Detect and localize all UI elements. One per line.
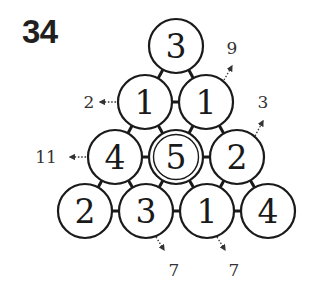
clue-value: 11	[35, 147, 57, 167]
circle-grid: 3114522314	[58, 19, 295, 238]
cell-value: 4	[105, 138, 126, 177]
clue-diag-mid-right: 3	[255, 92, 268, 136]
clue-bottom-2: 7	[217, 237, 239, 280]
cell-value: 2	[227, 138, 248, 177]
dotted-arrow-icon	[217, 237, 225, 250]
cell-value: 3	[136, 192, 157, 231]
cell-value: 1	[196, 83, 217, 122]
circle-cell-r4c2: 3	[119, 184, 173, 238]
circle-cell-r2c1: 1	[118, 75, 172, 129]
circle-cell-r4c1: 2	[58, 184, 112, 238]
clue-value: 9	[227, 38, 238, 58]
circle-cell-r3c1: 4	[88, 130, 142, 184]
cell-value: 4	[258, 192, 279, 231]
clue-row3-left: 11	[35, 147, 86, 167]
cell-value: 2	[75, 192, 96, 231]
circle-cell-r1c1: 3	[149, 19, 203, 73]
number-triangle-board: 3114522314 2119377	[0, 0, 315, 296]
cell-value: 1	[197, 192, 218, 231]
clue-value: 2	[84, 92, 95, 112]
circle-cell-r4c4: 4	[241, 184, 295, 238]
clue-value: 7	[229, 260, 240, 280]
circle-cell-r3c3: 2	[210, 130, 264, 184]
clue-diag-top-right: 9	[224, 38, 237, 80]
cell-value: 1	[135, 83, 156, 122]
clue-value: 3	[258, 92, 269, 112]
circle-cell-r4c3: 1	[180, 184, 234, 238]
clue-value: 7	[169, 260, 180, 280]
puzzle-canvas: 34 3114522314 2119377	[0, 0, 315, 296]
dotted-arrow-icon	[255, 121, 263, 136]
dotted-arrow-icon	[156, 237, 164, 250]
dotted-arrow-icon	[224, 66, 232, 80]
circle-cell-r3c2: 5	[149, 130, 203, 184]
clue-bottom-1: 7	[156, 237, 179, 280]
cell-value: 3	[166, 27, 187, 66]
clue-row2-left: 2	[84, 92, 116, 112]
cell-value: 5	[166, 138, 187, 177]
circle-cell-r2c2: 1	[179, 75, 233, 129]
